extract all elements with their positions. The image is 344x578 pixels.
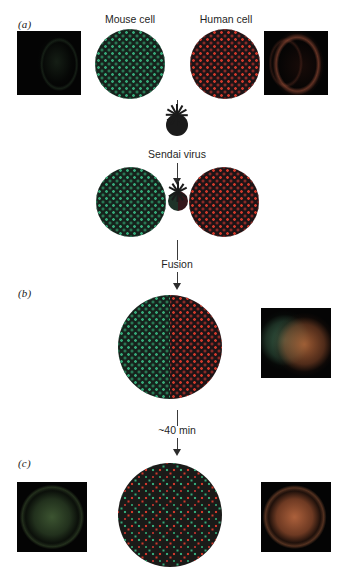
micrograph-red-40min-field: [261, 482, 331, 552]
micrograph-human-antigen-before: [264, 31, 328, 95]
panel-label-b: (b): [18, 287, 31, 299]
mouse-cell-label: Mouse cell: [92, 13, 168, 25]
sendai-virus-icon: [156, 104, 198, 146]
fusing-mouse-markers: [96, 167, 166, 237]
micrograph-heterokaryon-immediate: [261, 308, 331, 378]
arrow-line-fusion-upper: [177, 240, 178, 260]
heterokaryon-mixed-diagram: [118, 463, 222, 567]
panel-label-a: (a): [18, 18, 31, 30]
heterokaryon-green-half-markers: [118, 295, 170, 399]
time-elapsed-label: ~40 min: [137, 424, 217, 436]
sendai-virus-bridging-icon: [159, 182, 197, 220]
arrow-head-time: [173, 449, 181, 456]
micrograph-mouse-antigen-before: [17, 31, 81, 95]
sendai-virus-label: Sendai virus: [137, 148, 217, 160]
mouse-cell-diagram: [95, 29, 165, 99]
micrograph-human-before-field: [264, 31, 328, 95]
micrograph-green-40min-field: [17, 482, 87, 552]
panel-label-c: (c): [18, 457, 31, 469]
heterokaryon-mixed-markers-b: [118, 463, 222, 567]
human-cell-label: Human cell: [188, 13, 264, 25]
fusing-human-markers: [189, 167, 259, 237]
fusing-mouse-cell: [96, 167, 166, 237]
human-cell-diagram: [190, 29, 260, 99]
arrow-head-fusion: [173, 283, 181, 290]
fusion-label: Fusion: [137, 258, 217, 270]
heterokaryon-red-half-markers: [170, 295, 222, 399]
micrograph-heterokaryon-immediate-field: [261, 308, 331, 378]
micrograph-heterokaryon-red-40min: [261, 482, 331, 552]
micrograph-mouse-before-field: [17, 31, 81, 95]
fusing-human-cell: [189, 167, 259, 237]
mouse-cell-markers: [95, 29, 165, 99]
cell-fusion-figure: (a) Mouse cell Human cell Sendai virus: [0, 0, 344, 578]
heterokaryon-unmixed-diagram: [118, 295, 222, 399]
micrograph-heterokaryon-green-40min: [17, 482, 87, 552]
human-cell-markers: [190, 29, 260, 99]
